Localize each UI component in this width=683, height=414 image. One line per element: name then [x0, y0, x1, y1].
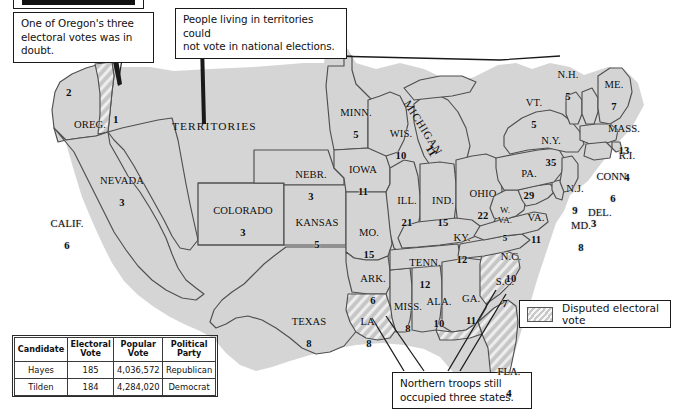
state-label-texas: TEXAS 8: [279, 305, 339, 360]
state-label-nh: N.H. 5: [550, 58, 586, 113]
cell-popular-vote: 4,036,572: [114, 361, 163, 378]
cell-candidate: Hayes: [15, 361, 68, 378]
state-label-fla: FLA. 4: [490, 355, 528, 410]
state-label-ky: KY. 12: [444, 221, 480, 276]
state-label-tenn: TENN. 12: [400, 246, 450, 301]
state-label-nebr: NEBR. 3: [282, 158, 340, 213]
cropped-top-bar-frame: [13, 0, 144, 9]
election-results-table: Candidate ElectoralVote PopularVote Poli…: [14, 337, 216, 396]
callout-oregon-disputed-vote: One of Oregon's three electoral votes wa…: [13, 12, 154, 63]
cell-candidate: Tilden: [15, 378, 68, 395]
cell-popular-vote: 4,284,020: [114, 378, 163, 395]
th-electoral-vote: ElectoralVote: [67, 338, 113, 362]
state-label-oregon-ev-undisputed: 2: [66, 86, 72, 98]
th-popular-vote: PopularVote: [114, 338, 163, 362]
cell-party: Republican: [163, 361, 216, 378]
state-label-ga: GA. 11: [452, 282, 490, 337]
table-header-row: Candidate ElectoralVote PopularVote Poli…: [15, 338, 216, 362]
state-label-iowa: IOWA 11: [341, 153, 385, 208]
legend-swatch-disputed: [527, 307, 553, 322]
state-label-colorado: COLORADO 3: [206, 194, 280, 249]
callout-territories-no-vote: People living in territories could not v…: [175, 8, 347, 59]
legend-label-disputed: Disputed electoral vote: [562, 302, 670, 326]
state-label-me: ME. 7: [597, 68, 631, 123]
territories-label: TERRITORIES: [172, 120, 257, 132]
state-label-oregon-ev-disputed: 1: [113, 113, 119, 125]
state-label-ill: ILL. 21: [388, 184, 426, 239]
th-political-party: PoliticalParty: [163, 338, 216, 362]
cell-electoral-vote: 185: [67, 361, 113, 378]
electoral-map-figure: One of Oregon's three electoral votes wa…: [0, 0, 683, 414]
table-row: Tilden 184 4,284,020 Democrat: [15, 378, 216, 395]
map-legend: Disputed electoral vote: [519, 300, 671, 328]
state-label-nevada: NEVADA 3: [84, 164, 160, 219]
table-row: Hayes 185 4,036,572 Republican: [15, 361, 216, 378]
state-label-minn: MINN. 5: [330, 96, 382, 151]
cell-electoral-vote: 184: [67, 378, 113, 395]
state-label-nj: N.J. 9: [558, 172, 592, 227]
state-label-vt: VT. 5: [518, 86, 550, 141]
state-label-oregon: OREG.: [60, 108, 120, 141]
state-label-la: LA. 8: [352, 305, 386, 360]
cell-party: Democrat: [163, 378, 216, 395]
th-candidate: Candidate: [15, 338, 68, 362]
state-label-kansas: KANSAS 5: [286, 206, 348, 261]
